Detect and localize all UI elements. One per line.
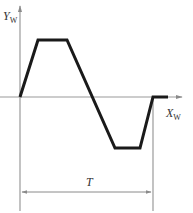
x-axis-label: XW: [165, 106, 181, 122]
y-axis-label: YW: [3, 9, 18, 25]
waveform-line: [20, 40, 168, 148]
period-label: T: [86, 175, 94, 189]
waveform-diagram: YW XW T: [0, 0, 193, 213]
